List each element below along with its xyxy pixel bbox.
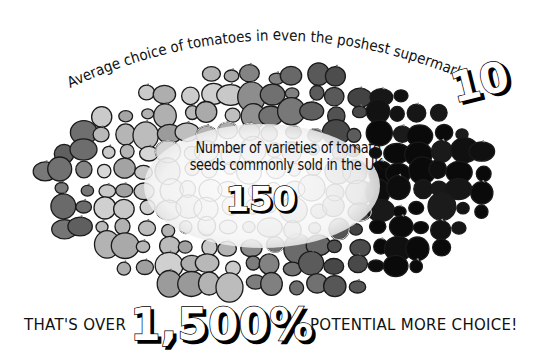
tomato-icon [202,67,220,81]
tomato-icon [409,202,424,215]
tomato-icon [115,218,130,234]
tomato-icon [98,164,111,178]
tomato-icon [310,86,324,101]
tomato-icon [114,199,135,219]
tomato-icon [70,139,97,160]
tomato-icon [196,102,217,123]
tomato-icon [353,106,367,118]
tomato-icon [133,122,158,150]
tomato-icon [390,216,414,237]
tomato-icon [435,125,452,141]
tomato-icon [120,144,134,158]
tomato-icon [224,70,239,82]
tomato-icon [475,205,488,218]
bottom-prefix: THAT'S OVER [24,316,126,334]
tomato-icon [324,87,344,105]
tomato-icon [117,262,130,275]
tomato-icon [76,201,92,213]
tomato-icon [136,241,149,253]
tomato-icon [261,273,283,296]
tomato-icon [119,111,133,122]
tomato-icon [81,185,93,196]
tomato-icon [428,192,456,220]
tomato-icon [433,239,451,256]
tomato-icon [139,85,155,100]
tomato-icon [325,67,345,86]
tomato-icon [457,203,469,214]
tomato-icon [348,255,367,273]
tomato-icon [432,141,453,163]
tomato-icon [116,184,133,197]
tomato-icon [452,222,466,234]
tomato-icon [195,254,219,273]
tomato-icon [182,87,200,104]
tomato-icon [431,221,451,240]
tomato-icon [324,259,344,275]
center-caption-line2: seeds commonly sold in the UK: [185,157,391,174]
tomato-icon [328,240,342,253]
tomato-icon [76,161,92,178]
tomato-icon [387,175,410,199]
tomato-icon [290,281,304,295]
center-caption-line1: Number of varieties of tomato [185,140,391,157]
tomato-icon [139,221,156,236]
tomato-icon [368,260,384,272]
tomato-icon [300,102,324,120]
tomato-icon [431,105,448,122]
top-number-10: 10 10 [446,50,518,115]
tomato-icon [259,254,279,274]
tomato-icon [383,255,408,276]
tomato-icon [103,146,115,158]
tomato-icon [410,260,422,273]
tomato-icon [393,206,406,217]
tomato-icon [93,127,109,142]
tomato-icon [246,256,260,270]
tomato-icon [225,108,240,122]
bottom-statement: THAT'S OVER POTENTIAL MORE CHOICE! [0,296,552,346]
tomato-icon [178,241,192,253]
tomato-icon [111,233,139,259]
tomato-icon [99,185,116,198]
tomato-icon [48,157,72,181]
tomato-icon [51,194,76,219]
tomato-icon [240,65,260,82]
tomato-icon [476,166,491,181]
tomato-icon [406,237,429,261]
infographic: Average choice of tomatoes in even the p… [0,0,552,360]
tomato-icon [92,107,112,128]
tomato-icon [370,220,386,234]
tomato-icon [114,158,135,178]
tomato-icon [280,66,301,85]
tomato-icon [469,142,495,161]
svg-text:150: 150 [226,179,297,219]
center-number-150: 150 150 [226,179,299,221]
tomato-icon [407,104,426,122]
bottom-suffix: POTENTIAL MORE CHOICE! [310,316,518,334]
tomato-icon [394,90,408,102]
tomato-icon [55,183,68,194]
tomato-icon [471,182,493,204]
tomato-icon [68,217,92,236]
tomato-icon [413,222,428,234]
tomato-icon [299,251,324,274]
tomato-icon [324,276,346,297]
tomato-icon [136,260,153,274]
tomato-icon [142,109,154,119]
tomato-icon [414,180,433,199]
tomato-icon [390,107,404,122]
tomato-icon [153,85,175,103]
tomato-icon [94,197,116,219]
center-caption: Number of varieties of tomato seeds comm… [185,140,391,174]
tomato-icon [429,160,447,179]
tomato-icon [349,281,365,293]
